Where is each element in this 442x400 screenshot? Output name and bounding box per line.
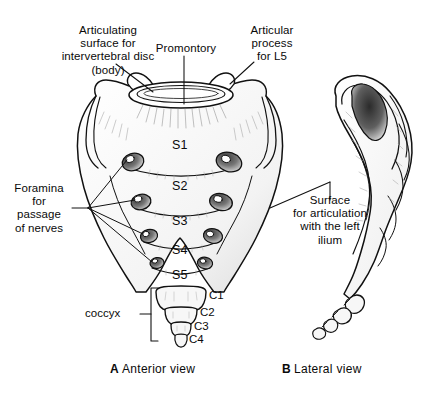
caption-a-text: Anterior view — [122, 362, 195, 376]
segment-label-s4: S4 — [172, 243, 188, 257]
caption-panel-a: AAnterior view — [110, 362, 195, 376]
segment-label-c2: C2 — [200, 306, 215, 318]
caption-b-letter: B — [282, 362, 291, 376]
coccyx-lateral-c3 — [324, 319, 338, 332]
segment-label-c4: C4 — [189, 333, 204, 345]
caption-b-text: Lateral view — [294, 362, 362, 376]
promontory-oval-core — [144, 89, 218, 99]
label-promontory: Promontory — [140, 42, 232, 55]
segment-label-s2: S2 — [172, 179, 188, 193]
caption-panel-b: BLateral view — [282, 362, 362, 376]
label-coccyx: coccyx — [85, 307, 120, 319]
segment-label-c1: C1 — [209, 289, 224, 301]
label-articular-process-l5: Articular process for L5 — [233, 24, 311, 64]
coccyx-lateral-c4 — [313, 328, 326, 339]
label-foramina: Foramina for passage of nerves — [6, 182, 72, 235]
segment-label-c3: C3 — [194, 320, 209, 332]
coccyx-c4 — [175, 334, 187, 347]
anatomical-figure: Articulating surface for intervertebral … — [0, 0, 442, 400]
caption-a-letter: A — [110, 362, 119, 376]
label-articulation-surface-ilium: Surface for articulation with the left i… — [270, 194, 390, 247]
segment-label-s1: S1 — [172, 138, 188, 152]
segment-label-s3: S3 — [172, 214, 188, 228]
segment-label-s5: S5 — [172, 268, 188, 282]
